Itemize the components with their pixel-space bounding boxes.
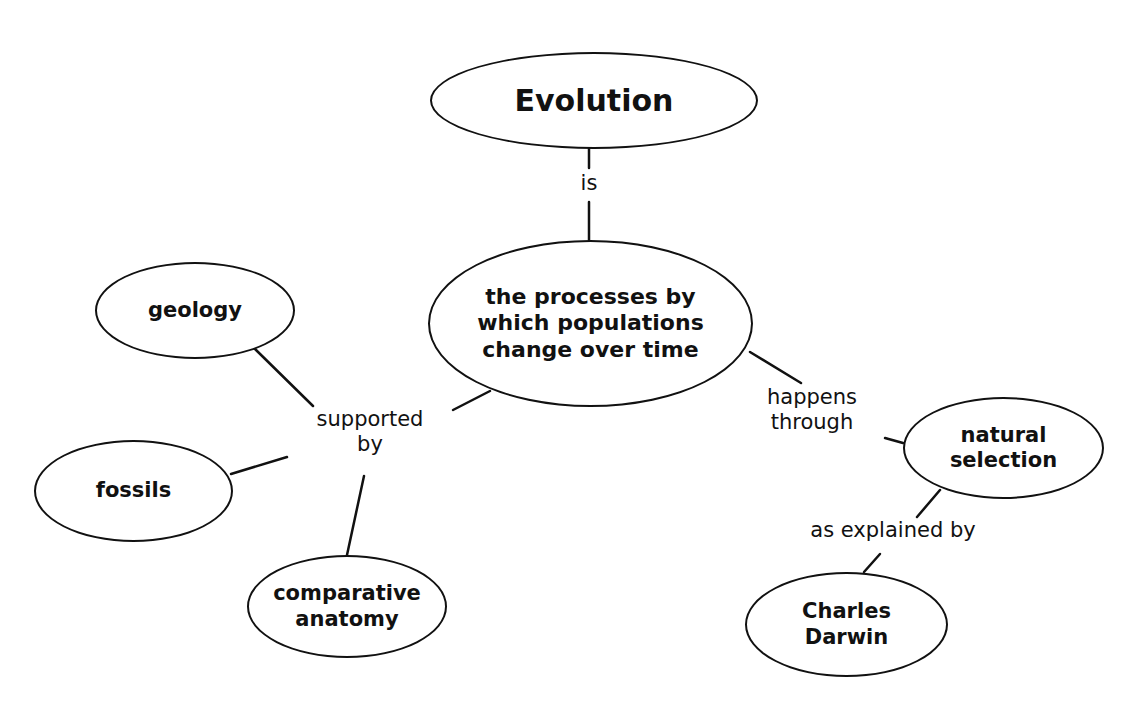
node-geology-text: geology — [148, 298, 242, 323]
edge-explained-darwin — [864, 554, 880, 572]
node-natural-selection: natural selection — [903, 397, 1104, 499]
link-label-is: is — [569, 171, 609, 196]
edge-fossils-supported — [231, 457, 287, 474]
edge-natural-explained — [917, 490, 940, 517]
edge-geology-supported — [255, 349, 313, 406]
node-comparative-anatomy: comparative anatomy — [247, 555, 447, 658]
node-darwin-text: Charles Darwin — [802, 599, 891, 649]
edge-happens-natural — [885, 438, 903, 443]
link-label-as-explained-by: as explained by — [788, 518, 998, 543]
node-natural-text: natural selection — [950, 423, 1057, 473]
node-central-text: the processes by which populations chang… — [477, 284, 703, 363]
node-fossils-text: fossils — [96, 478, 171, 503]
edge-supported-comparative — [347, 476, 364, 555]
node-comparative-text: comparative anatomy — [273, 581, 421, 631]
node-fossils: fossils — [34, 440, 233, 542]
node-geology: geology — [95, 262, 295, 359]
node-charles-darwin: Charles Darwin — [745, 572, 948, 677]
link-label-happens-through: happens through — [752, 385, 872, 435]
node-central: the processes by which populations chang… — [428, 240, 753, 407]
link-label-supported-by: supported by — [300, 407, 440, 457]
node-evolution-text: Evolution — [515, 83, 674, 119]
node-evolution: Evolution — [430, 52, 758, 149]
edge-central-happens — [750, 352, 801, 383]
edge-central-supported — [453, 391, 490, 410]
